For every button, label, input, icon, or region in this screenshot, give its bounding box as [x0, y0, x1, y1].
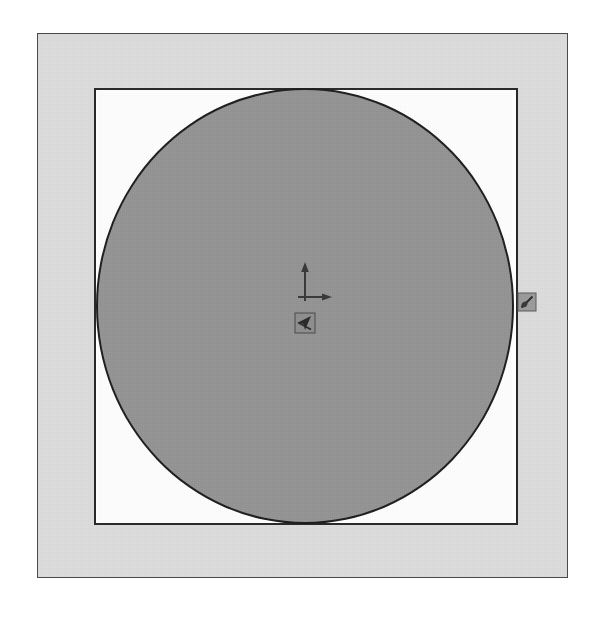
canvas-title: Drawing Canvas	[0, 0, 1, 1]
drawing-canvas[interactable]: Drawing Canvas	[0, 0, 592, 618]
pick-box-cursor-icon	[294, 312, 316, 334]
ucs-axis-indicator	[296, 261, 334, 305]
shaded-circle[interactable]	[96, 88, 514, 524]
edge-grip-handle-icon[interactable]	[517, 292, 537, 312]
circle-grain-overlay	[98, 90, 512, 522]
